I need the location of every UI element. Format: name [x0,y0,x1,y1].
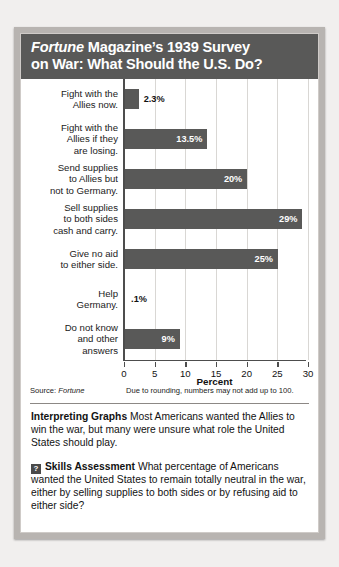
bar-value-label: 25% [255,249,273,269]
category-label: Give no aidto either side. [60,248,118,271]
bar-value-label: .1% [131,289,147,309]
rounding-note: Due to rounding, numbers may not add up … [126,386,294,395]
category-label: Fight with theAllies now. [61,88,118,111]
bar-value-label: 2.3% [144,89,165,109]
plot-area: 0510152025302.3%13.5%20%29%25%.1%9% [123,79,306,361]
figure-frame: Fortune Magazine’s 1939 Survey on War: W… [14,27,325,539]
category-label: Send suppliesto Allies butnot to Germany… [50,162,118,197]
bar-value-label: 20% [224,169,242,189]
figure-inner: Fortune Magazine’s 1939 Survey on War: W… [20,33,319,533]
figure-title-line-2: on War: What Should the U.S. Do? [31,56,308,73]
source-row: Source: Fortune Due to rounding, numbers… [30,384,309,404]
bar-value-label: 29% [279,209,297,229]
x-axis-tick [185,362,186,367]
interpreting-graphs-block: Interpreting Graphs Most Americans wante… [31,411,308,450]
x-axis-tick [277,362,278,367]
bar [125,209,303,229]
category-label-column: Fight with theAllies now.Fight with theA… [21,79,123,361]
bar-value-label: 13.5% [176,129,202,149]
category-label: Fight with theAllies if theyare losing. [61,122,118,157]
bar [125,89,139,109]
gridline [308,79,309,359]
question-mark-icon: ? [31,464,41,474]
x-axis-tick [124,362,125,367]
category-label: Sell suppliesto both sidescash and carry… [53,202,118,237]
source-credit: Source: Fortune [30,386,84,395]
skills-assessment-heading: Skills Assessment [45,461,135,472]
x-axis-tick [247,362,248,367]
category-label: Do not knowand otheranswers [65,322,118,357]
figure-title-line-1-rest: Magazine’s 1939 Survey [84,39,250,55]
x-axis-tick [308,362,309,367]
source-name: Fortune [58,386,84,395]
figure-title-line-1: Fortune Magazine’s 1939 Survey [31,39,308,56]
skills-assessment-block: ?Skills Assessment What percentage of Am… [31,461,308,513]
bar-chart: Fight with theAllies now.Fight with theA… [21,79,318,384]
figure-title-band: Fortune Magazine’s 1939 Survey on War: W… [21,34,318,79]
category-label: HelpGermany. [77,288,118,311]
figure-title-magazine-name: Fortune [31,39,84,55]
x-axis-tick [216,362,217,367]
interpreting-graphs-heading: Interpreting Graphs [31,411,127,422]
source-label: Source: [30,386,58,395]
x-axis-line [123,360,306,362]
bar-value-label: 9% [162,329,175,349]
x-axis-tick [155,362,156,367]
